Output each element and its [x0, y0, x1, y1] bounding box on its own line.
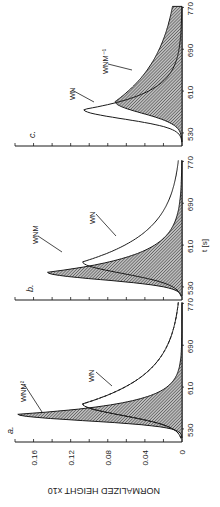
series-filled	[18, 302, 182, 438]
figure: 530610690770a.530610690770b.530610690770…	[0, 0, 220, 507]
x-tick-label: 610	[186, 239, 195, 253]
panel-b: 530610690770b.	[15, 156, 195, 300]
y-axis-title: NORMALIZED HEIGHT x10	[48, 486, 160, 496]
annotation-c-wnm-1: WNM⁻¹	[101, 48, 110, 74]
series-filled	[48, 160, 183, 296]
chart-svg: 530610690770a.530610690770b.530610690770…	[0, 0, 220, 507]
x-tick-label: 770	[186, 298, 195, 312]
annotation-b-wn: WN	[88, 212, 97, 225]
x-tick-label: 610	[186, 381, 195, 395]
y-tick-label: 0	[178, 449, 187, 454]
annotation-c-wn: WN	[68, 88, 77, 101]
annotation-a-wnm2: WNM²	[19, 380, 28, 402]
x-tick-label: 690	[186, 43, 195, 57]
x-tick-label: 690	[186, 197, 195, 211]
x-tick-label: 770	[186, 156, 195, 170]
x-tick-label: 690	[186, 339, 195, 353]
panel-a: 530610690770a.	[5, 298, 195, 442]
annotation-a-wn: WN	[87, 370, 96, 383]
y-tick-label: 0.08	[104, 449, 113, 465]
x-axis-title: t [s]	[200, 239, 209, 252]
x-tick-label: 530	[186, 281, 195, 295]
x-tick-label: 610	[186, 85, 195, 99]
y-tick-label: 0.16	[30, 449, 39, 465]
panel-label: c.	[27, 131, 37, 138]
panel-label: a.	[5, 426, 15, 434]
annotation-b-wnm: WNM	[31, 225, 40, 244]
x-tick-label: 770	[186, 2, 195, 16]
x-tick-label: 530	[186, 423, 195, 437]
y-tick-label: 0.04	[141, 449, 150, 465]
series-filled	[115, 6, 182, 142]
x-tick-label: 530	[186, 127, 195, 141]
panel-label: b.	[25, 284, 35, 292]
y-tick-label: 0.12	[67, 449, 76, 465]
